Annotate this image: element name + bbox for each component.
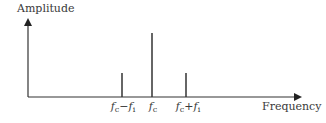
lower-sideband-label: fc−fi xyxy=(111,100,135,114)
y-axis-label: Amplitude xyxy=(17,2,75,15)
upper-sideband-label: fc+fi xyxy=(176,100,200,114)
x-axis-label: Frequency xyxy=(262,100,322,113)
carrier-label: fc xyxy=(149,100,158,114)
